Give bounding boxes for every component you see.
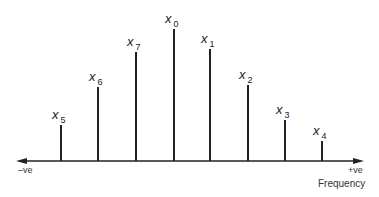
negative-label: –ve [18, 165, 33, 175]
frequency-spectrum-diagram: –ve +ve Frequency x5x6x7x0x1x2x3x4 [0, 0, 379, 197]
spectral-line-x7: x7 [126, 34, 141, 161]
spectral-line-x0: x0 [164, 11, 179, 161]
frequency-axis-title: Frequency [318, 178, 365, 189]
spectral-line-x1: x1 [200, 31, 215, 161]
spectral-line-x6: x6 [88, 69, 103, 161]
spectral-line-x4: x4 [312, 123, 327, 161]
spectral-line-x5: x5 [51, 107, 66, 161]
stem-label: x1 [200, 31, 215, 49]
stem-label: x7 [126, 34, 141, 52]
stem-label: x0 [164, 11, 179, 29]
stem-label: x4 [312, 123, 327, 141]
stem-label: x5 [51, 107, 66, 125]
spectral-lines: x5x6x7x0x1x2x3x4 [51, 11, 327, 161]
right-arrow-icon [353, 158, 364, 164]
stem-label: x3 [275, 102, 290, 120]
stem-label: x2 [238, 67, 253, 85]
spectral-line-x3: x3 [275, 102, 290, 161]
left-arrow-icon [16, 158, 27, 164]
positive-label: +ve [348, 165, 363, 175]
spectral-line-x2: x2 [238, 67, 253, 161]
stem-label: x6 [88, 69, 103, 87]
